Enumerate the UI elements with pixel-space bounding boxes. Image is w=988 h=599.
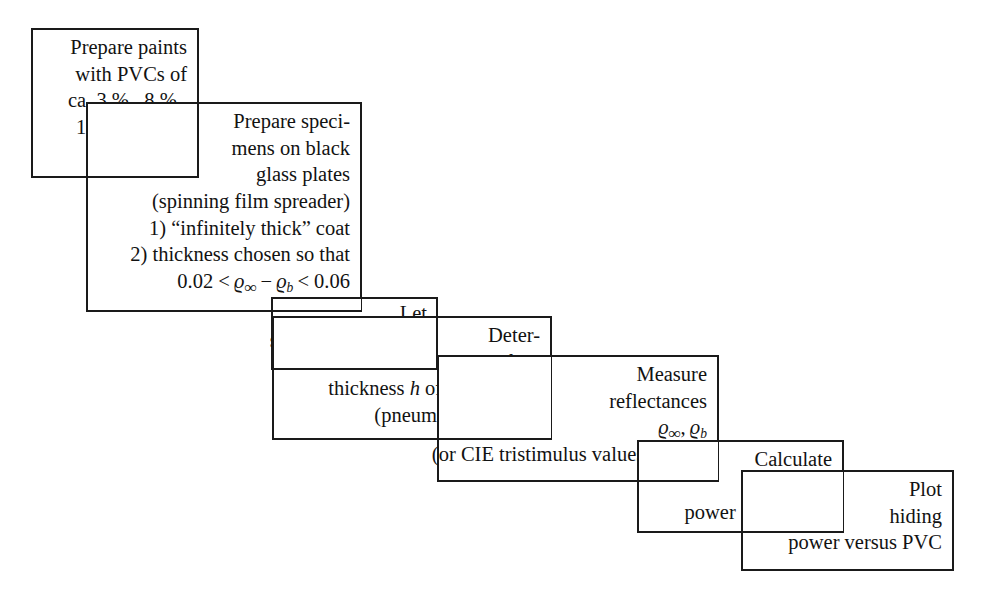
plot-hiding-power-line-1: Plot [700, 476, 942, 503]
prepare-specimens-line-1: Prepare speci- [40, 108, 350, 135]
prepare-paints-line-1: Prepare paints [31, 34, 187, 61]
symbol-comma-1: , [681, 416, 686, 438]
minus-sign: − [260, 270, 272, 292]
measure-reflectances-symbols: ϱ∞, ϱb [355, 414, 707, 441]
rho-infinity-symbol: ϱ∞ [234, 270, 256, 292]
prepare-specimens-line-2: mens on black [40, 135, 350, 162]
plot-hiding-power-line-2: hiding [700, 503, 942, 530]
plot-hiding-power-line-3: power versus PVC [700, 529, 942, 556]
measure-reflectances-line-2: reflectances [355, 388, 707, 415]
inequality-lead: 0.02 < [177, 270, 230, 292]
calculate-hiding-power-line-1: Calculate [600, 446, 832, 473]
rho-infinity-symbol-2: ϱ∞ [658, 416, 680, 438]
inequality-tail: < 0.06 [297, 270, 350, 292]
prepare-paints-line-2: with PVCs of [31, 61, 187, 88]
prepare-specimens-inequality: 0.02 < ϱ∞ − ϱb < 0.06 [40, 268, 350, 295]
step-text-plot-hiding-power: Plot hiding power versus PVC [700, 476, 942, 556]
prepare-specimens-line-6: 2) thickness chosen so that [40, 241, 350, 268]
flowchart-canvas: Prepare paints with PVCs of ca. 3 % , 8 … [0, 0, 988, 599]
determine-thickness-line-1: Deter- [250, 322, 540, 349]
rho-b-symbol-2: ϱb [690, 416, 707, 438]
prepare-specimens-line-3: glass plates [40, 161, 350, 188]
step-text-prepare-specimens: Prepare speci- mens on black glass plate… [40, 108, 350, 294]
prepare-specimens-line-5: 1) “infinitely thick” coat [40, 215, 350, 242]
prepare-specimens-line-4: (spinning film spreader) [40, 188, 350, 215]
rho-b-symbol: ϱb [276, 270, 293, 292]
measure-reflectances-line-1: Measure [355, 361, 707, 388]
